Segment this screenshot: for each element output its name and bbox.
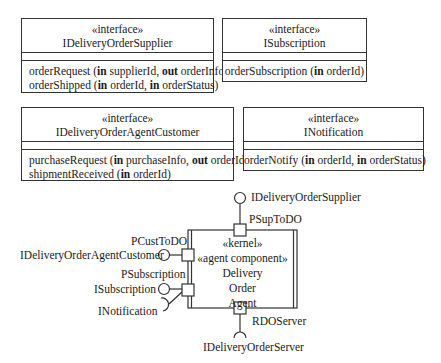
provided-interface-supplier-label: IDeliveryOrderSupplier <box>251 191 361 204</box>
required-interface-notification-label: INotification <box>98 305 157 318</box>
component-name-line: Order <box>192 281 293 296</box>
port-pcusttodo-label: PCustToDO <box>131 235 187 248</box>
required-interface-server-icon <box>234 332 246 338</box>
provided-interface-supplier-icon <box>235 193 246 204</box>
stereotype-agent-component: «agent component» <box>192 251 293 266</box>
provided-interface-subscription-label: ISubscription <box>94 283 156 296</box>
component-label: «kernel» «agent component» Delivery Orde… <box>192 236 293 311</box>
port-rdoserver-label: RDOServer <box>252 315 306 328</box>
notification-socket-stem <box>169 292 182 304</box>
stereotype-kernel: «kernel» <box>192 236 293 251</box>
component-name-line: Delivery <box>192 266 293 281</box>
required-interface-notification-icon <box>161 298 169 311</box>
required-interface-server-label: IDeliveryOrderServer <box>203 341 304 354</box>
component-name-line: Agent <box>192 296 293 311</box>
port-psuptodo-icon <box>234 224 246 236</box>
provided-interface-subscription-icon <box>159 284 170 295</box>
port-psuptodo-label: PSupToDO <box>249 213 302 226</box>
port-psubscription-label: PSubscription <box>121 268 186 281</box>
provided-interface-customer-label: IDeliveryOrderAgentCustomer <box>20 249 164 262</box>
